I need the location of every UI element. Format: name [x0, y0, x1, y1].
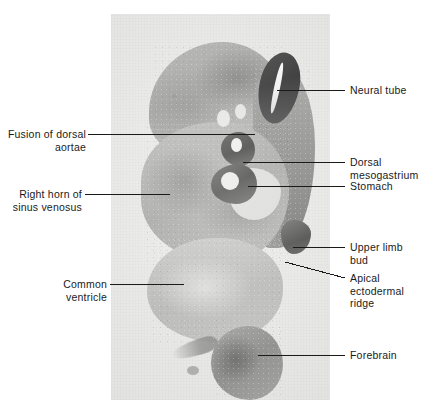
- label-forebrain: Forebrain: [350, 349, 397, 362]
- label-fusion-of-dorsal-aortae: Fusion of dorsal aortae: [0, 128, 86, 153]
- micrograph-plate: [111, 14, 330, 400]
- label-right-horn-of-sinus-venosus: Right horn of sinus venosus: [0, 188, 82, 213]
- label-common-ventricle: Common ventricle: [0, 278, 107, 303]
- label-stomach: Stomach: [350, 180, 393, 193]
- label-apical-ectodermal-ridge: Apical ectodermal ridge: [350, 272, 404, 310]
- plate-vignette: [111, 14, 330, 400]
- label-neural-tube: Neural tube: [350, 84, 407, 97]
- label-upper-limb-bud: Upper limb bud: [350, 241, 403, 266]
- anatomy-figure: Neural tube Fusion of dorsal aortae Dors…: [0, 0, 438, 414]
- label-dorsal-mesogastrium: Dorsal mesogastrium: [350, 156, 418, 181]
